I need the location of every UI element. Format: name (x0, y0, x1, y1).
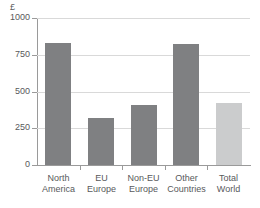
bar (131, 105, 157, 165)
x-axis-category-label-line: America (37, 184, 80, 195)
x-axis-line (37, 165, 251, 166)
y-axis-tick-mark (32, 18, 37, 19)
x-axis-category-label: EUEurope (80, 173, 123, 195)
y-axis-tick-mark (32, 92, 37, 93)
x-axis-category-label-line: Europe (80, 184, 123, 195)
bar (88, 118, 114, 165)
x-axis-tick-mark (207, 166, 208, 170)
x-axis-tick-mark (165, 166, 166, 170)
y-axis-tick-label: 0 (0, 160, 30, 169)
x-axis-tick-mark (80, 166, 81, 170)
x-axis-category-label-line: Other (165, 173, 208, 184)
bar (216, 103, 242, 165)
x-axis-category-label-line: North (37, 173, 80, 184)
x-axis-tick-mark (122, 166, 123, 170)
x-axis-category-label-line: Countries (165, 184, 208, 195)
x-axis-category-label: NorthAmerica (37, 173, 80, 195)
y-axis-tick-label: 1000 (0, 13, 30, 22)
bar (45, 43, 71, 165)
bar (173, 44, 199, 165)
gridline (37, 18, 250, 19)
y-axis-tick-label: 500 (0, 87, 30, 96)
y-axis-tick-mark (32, 165, 37, 166)
x-axis-category-label: Non-EUEurope (122, 173, 165, 195)
x-axis-category-label-line: Non-EU (122, 173, 165, 184)
x-axis-category-label: OtherCountries (165, 173, 208, 195)
x-axis-category-label-line: EU (80, 173, 123, 184)
y-axis-tick-mark (32, 55, 37, 56)
y-axis-tick-mark (32, 128, 37, 129)
bar-chart: £ 10007505002500 NorthAmericaEUEuropeNon… (0, 0, 260, 208)
currency-unit-label: £ (10, 2, 15, 12)
y-axis-tick-label: 250 (0, 123, 30, 132)
x-axis-category-label: TotalWorld (207, 173, 250, 195)
y-axis-tick-label: 750 (0, 50, 30, 59)
x-axis-category-label-line: Total (207, 173, 250, 184)
x-axis-category-label-line: Europe (122, 184, 165, 195)
x-axis-category-label-line: World (207, 184, 250, 195)
